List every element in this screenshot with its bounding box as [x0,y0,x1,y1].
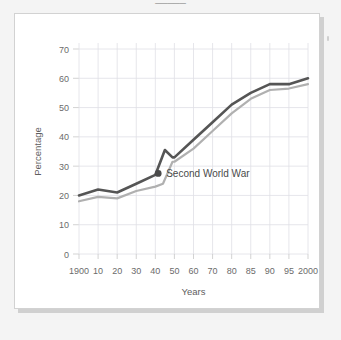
x-axis-tick-label: 10 [93,266,103,276]
y-axis-tick-label: 60 [59,74,69,84]
x-axis-tick-label: 70 [208,266,218,276]
y-axis-tick-label: 30 [59,162,69,172]
x-axis-tick-label: 2000 [298,266,318,276]
x-axis-tick-label: 80 [227,266,237,276]
y-axis-tick-label: 70 [59,45,69,55]
y-axis-tick-label: 0 [64,250,69,260]
chart-plot-area[interactable]: 0102030405060701900102030405060708085909… [15,14,321,310]
chart-card: 0102030405060701900102030405060708085909… [14,13,320,309]
x-axis-tick-label: 90 [265,266,275,276]
x-axis-tick-label: 30 [131,266,141,276]
x-axis-tick-label: 95 [284,266,294,276]
x-axis-tick-label: 50 [169,266,179,276]
x-axis-title: Years [182,286,206,297]
y-axis-title: Percentage [32,127,43,176]
x-axis-tick-label: 85 [246,266,256,276]
annotation-marker-dot[interactable] [155,170,162,177]
y-axis-tick-label: 40 [59,132,69,142]
x-axis-tick-label: 40 [150,266,160,276]
x-axis-tick-label: 20 [112,266,122,276]
x-axis-tick-label: 60 [188,266,198,276]
stray-speck [327,36,329,41]
annotation-label: Second World War [166,168,250,179]
x-axis-tick-label: 1900 [69,266,89,276]
y-axis-tick-label: 20 [59,191,69,201]
line-chart[interactable]: 0102030405060701900102030405060708085909… [15,14,321,310]
cropped-title-remnant: _____ [0,0,341,4]
y-axis-tick-label: 50 [59,103,69,113]
y-axis-tick-label: 10 [59,220,69,230]
